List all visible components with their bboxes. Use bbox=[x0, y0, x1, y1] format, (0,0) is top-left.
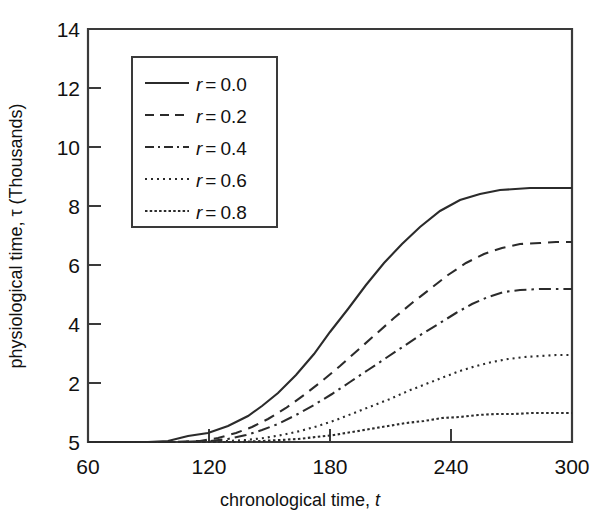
x-tick-label-300: 300 bbox=[554, 455, 589, 478]
y-tick-label-8: 8 bbox=[68, 195, 80, 218]
y-tick-label-2: 2 bbox=[68, 372, 80, 395]
x-tick-label-240: 240 bbox=[433, 455, 468, 478]
y-axis-title-text: physiological time, τ (Thousands) bbox=[6, 103, 26, 368]
x-tick-label-60: 60 bbox=[76, 455, 99, 478]
series-line-r-0-4 bbox=[88, 289, 572, 442]
x-axis-title-variable: t bbox=[375, 490, 381, 510]
y-tick-label-10: 10 bbox=[57, 136, 80, 159]
y-tick-label-6: 6 bbox=[68, 254, 80, 277]
series-line-r-0-6 bbox=[88, 355, 572, 442]
x-tick-label-180: 180 bbox=[312, 455, 347, 478]
y-axis-title: physiological time, τ (Thousands) bbox=[6, 103, 26, 368]
y-tick-label-14: 14 bbox=[57, 18, 81, 41]
x-axis-title: chronological time, t bbox=[220, 490, 381, 510]
y-tick-label-0: 5 bbox=[68, 431, 80, 454]
y-tick-labels: 14 12 10 8 6 4 2 5 bbox=[57, 18, 81, 454]
y-tick-label-4: 4 bbox=[68, 313, 80, 336]
svg-text:chronological time, t: chronological time, t bbox=[220, 490, 381, 510]
x-axis-title-main: chronological time, bbox=[220, 490, 370, 510]
x-tick-label-120: 120 bbox=[191, 455, 226, 478]
chart-svg: 14 12 10 8 6 4 2 5 60 120 180 240 300 ch… bbox=[0, 0, 601, 525]
chart-figure: 14 12 10 8 6 4 2 5 60 120 180 240 300 ch… bbox=[0, 0, 601, 525]
series-line-r-0-2 bbox=[88, 242, 572, 442]
x-tick-labels: 60 120 180 240 300 bbox=[76, 455, 589, 478]
y-tick-label-12: 12 bbox=[57, 77, 80, 100]
legend: r=0.0 r=0.2 r=0.4 r=0.6 r=0.8 bbox=[132, 57, 277, 227]
y-axis-ticks bbox=[88, 88, 101, 383]
